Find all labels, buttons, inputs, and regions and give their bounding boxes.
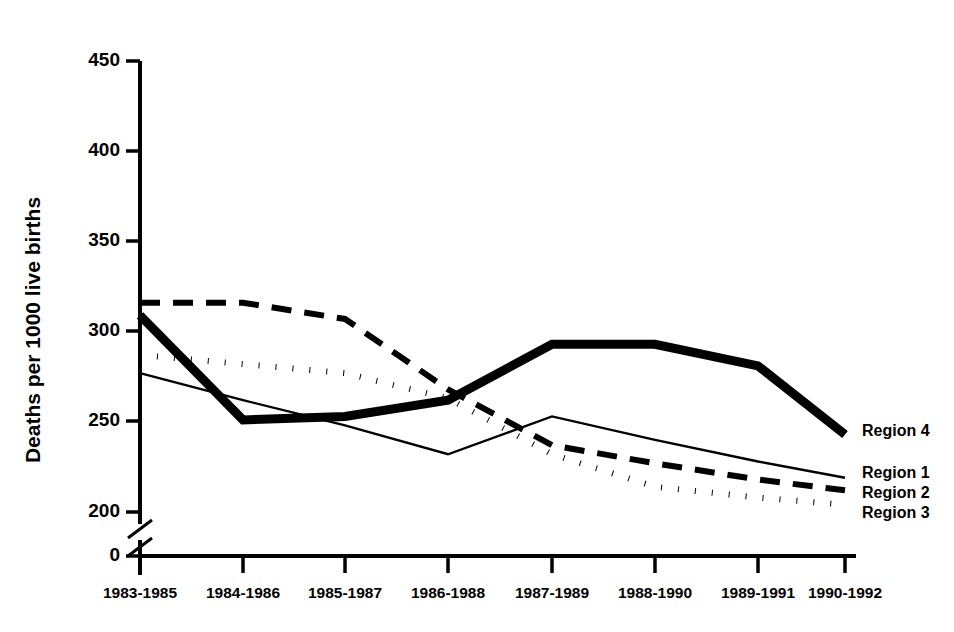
series-line-region-4 <box>140 315 845 434</box>
legend-label-region-3: Region 3 <box>862 504 930 521</box>
y-tick-label-200: 200 <box>88 500 120 521</box>
y-axis-title: Deaths per 1000 live births <box>21 197 44 463</box>
data-series-group <box>140 303 845 505</box>
y-tick-label-400: 400 <box>88 139 120 160</box>
chart-canvas: Deaths per 1000 live births 450 400 350 … <box>0 0 954 632</box>
x-axis-ticks: 1983-19851984-19861985-19871986-19881987… <box>103 556 882 601</box>
x-tick-label-1983-1985: 1983-1985 <box>103 584 178 601</box>
line-chart: Deaths per 1000 live births 450 400 350 … <box>0 0 954 632</box>
series-line-region-1 <box>140 373 845 478</box>
y-tick-label-zero: 0 <box>109 544 120 565</box>
x-tick-label-1989-1991: 1989-1991 <box>721 584 796 601</box>
x-tick-label-1985-1987: 1985-1987 <box>308 584 382 601</box>
y-axis-ticks: 450 400 350 300 250 200 0 <box>88 49 140 565</box>
x-tick-label-1990-1992: 1990-1992 <box>808 584 882 601</box>
x-tick-label-1984-1986: 1984-1986 <box>206 584 281 601</box>
legend-label-region-4: Region 4 <box>862 422 930 439</box>
x-tick-label-1988-1990: 1988-1990 <box>618 584 692 601</box>
legend-label-region-1: Region 1 <box>862 464 930 481</box>
series-line-region-2 <box>140 303 845 491</box>
y-tick-label-250: 250 <box>88 409 120 430</box>
x-tick-label-1987-1989: 1987-1989 <box>515 584 590 601</box>
y-tick-label-450: 450 <box>88 49 120 70</box>
x-tick-label-1986-1988: 1986-1988 <box>411 584 486 601</box>
y-tick-label-350: 350 <box>88 229 120 250</box>
y-tick-label-300: 300 <box>88 319 120 340</box>
chart-legend: Region 4Region 1Region 2Region 3 <box>862 422 930 521</box>
legend-label-region-2: Region 2 <box>862 484 930 501</box>
